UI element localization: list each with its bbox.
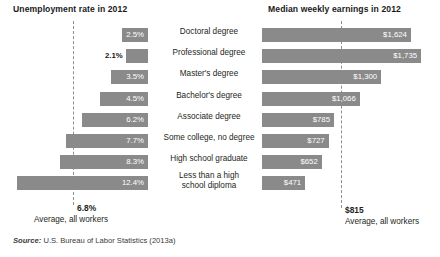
earnings-bar: $1,735 [262, 49, 421, 63]
chart-row: 4.5%Bachelor's degree$1,066 [0, 92, 440, 107]
chart-figure: Unemployment rate in 2012 Median weekly … [0, 0, 440, 257]
earnings-bar: $1,300 [262, 70, 381, 84]
earnings-bar: $1,066 [262, 92, 360, 106]
chart-row: 7.7%Some college, no degree$727 [0, 134, 440, 149]
earnings-bar: $471 [262, 176, 305, 190]
unemployment-bar-value: 7.7% [126, 134, 144, 148]
left-average-value: 6.8% [77, 203, 96, 213]
category-label: Less than a highschool diploma [160, 171, 258, 190]
source-note: Source: U.S. Bureau of Labor Statistics … [13, 236, 176, 245]
earnings-bar-value: $1,066 [332, 92, 360, 106]
right-panel-title: Median weekly earnings in 2012 [268, 4, 401, 14]
category-label: Master's degree [160, 69, 258, 79]
unemployment-bar-value: 2.1% [105, 49, 123, 63]
unemployment-bar [126, 49, 148, 63]
chart-row: 3.5%Master's degree$1,300 [0, 70, 440, 85]
unemployment-bar-value: 6.2% [126, 113, 144, 127]
chart-row: 8.3%High school graduate$652 [0, 155, 440, 170]
category-label: High school graduate [160, 154, 258, 164]
left-panel-title: Unemployment rate in 2012 [13, 4, 127, 14]
chart-row: 2.5%Doctoral degree$1,624 [0, 28, 440, 43]
category-label: Doctoral degree [160, 27, 258, 37]
source-text: U.S. Bureau of Labor Statistics (2013a) [43, 236, 175, 245]
left-average-caption: Average, all workers [34, 215, 108, 224]
earnings-bar-value: $785 [313, 113, 334, 127]
earnings-bar-value: $1,300 [353, 70, 381, 84]
earnings-bar: $652 [262, 155, 322, 169]
earnings-bar: $785 [262, 113, 334, 127]
earnings-bar-value: $727 [307, 134, 328, 148]
earnings-bar-value: $471 [284, 176, 305, 190]
unemployment-bar-value: 3.5% [126, 70, 144, 84]
unemployment-bar-value: 2.5% [126, 28, 144, 42]
earnings-bar-value: $1,624 [383, 28, 411, 42]
earnings-bar: $1,624 [262, 28, 411, 42]
category-label: Associate degree [160, 112, 258, 122]
category-label: Some college, no degree [160, 133, 258, 143]
earnings-bar-value: $1,735 [393, 49, 421, 63]
right-average-value: $815 [345, 205, 364, 215]
right-average-caption: Average, all workers [345, 217, 419, 226]
earnings-bar-value: $652 [300, 155, 321, 169]
unemployment-bar-value: 8.3% [126, 155, 144, 169]
chart-row: 2.1%Professional degree$1,735 [0, 49, 440, 64]
unemployment-bar-value: 4.5% [126, 92, 144, 106]
chart-row: 12.4%Less than a highschool diploma$471 [0, 176, 440, 191]
chart-row: 6.2%Associate degree$785 [0, 113, 440, 128]
source-prefix: Source: [13, 236, 41, 245]
unemployment-bar-value: 12.4% [122, 176, 144, 190]
category-label: Bachelor's degree [160, 91, 258, 101]
earnings-bar: $727 [262, 134, 329, 148]
category-label: Professional degree [160, 48, 258, 58]
